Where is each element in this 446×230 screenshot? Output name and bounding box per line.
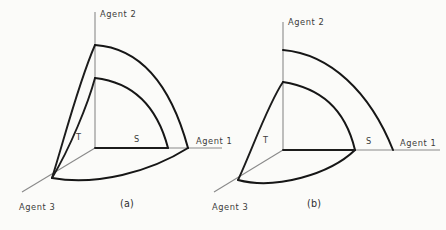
panel-a-label-s: S [134,135,140,143]
figure-container: Agent 2 Agent 1 Agent 3 T S (a) Agent 2 … [0,0,446,230]
panel-b-axis-agent3-label: Agent 3 [212,203,248,211]
panel-b-axis-agent2-label: Agent 2 [288,18,324,26]
panel-a-axes [22,12,222,192]
diagram-svg [0,0,446,230]
panel-b-caption: (b) [307,199,321,209]
panel-b-outer-curve-top [283,50,393,150]
panel-a-axis-agent3-label: Agent 3 [19,203,55,211]
panel-b-axes [214,22,440,192]
panel-b-inner-surface [238,82,355,180]
panel-a-outer-curve-bottom [52,148,188,180]
panel-a-inner-edge-left [52,78,95,178]
panel-a-outer-surface [52,45,188,180]
panel-b-label-t: T [263,136,268,144]
panel-a-outer-curve-top [95,45,188,148]
panel-a-axis-agent1-label: Agent 1 [196,137,232,145]
panel-a-label-t: T [76,133,81,141]
panel-b-inner-curve-top [283,82,355,150]
panel-a-caption: (a) [120,199,134,209]
panel-b-label-s: S [366,137,372,145]
panel-b-axis-agent1-label: Agent 1 [400,139,436,147]
panel-a-outer-edge-left [52,45,95,178]
panel-b-inner-edge-left [238,82,283,180]
panel-a-inner-curve-top [95,78,168,148]
panel-a-axis-agent2-label: Agent 2 [100,10,136,18]
